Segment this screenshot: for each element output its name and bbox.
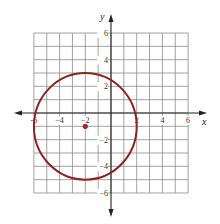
x-tick-label: 4 — [160, 116, 164, 125]
y-tick-label: −4 — [99, 162, 108, 171]
x-axis-label: x — [201, 116, 207, 127]
x-tick-label: −2 — [81, 116, 90, 125]
y-tick-label: −6 — [99, 189, 108, 198]
axes — [14, 14, 207, 217]
y-tick-label: 2 — [104, 82, 108, 91]
x-tick-label: 6 — [186, 116, 190, 125]
y-tick-label: 4 — [104, 56, 108, 65]
y-tick-label: 6 — [104, 29, 108, 38]
y-tick-label: −2 — [99, 136, 108, 145]
x-tick-label: −4 — [55, 116, 64, 125]
center-point — [83, 124, 88, 129]
coordinate-plane: -6−4−2246642−2−4−6 x y — [0, 0, 220, 224]
y-axis-up-arrow-icon — [109, 14, 114, 22]
x-axis-left-arrow-icon — [14, 111, 22, 116]
y-axis-down-arrow-icon — [109, 209, 114, 217]
y-axis-label: y — [99, 11, 105, 22]
x-axis-right-arrow-icon — [199, 111, 207, 116]
